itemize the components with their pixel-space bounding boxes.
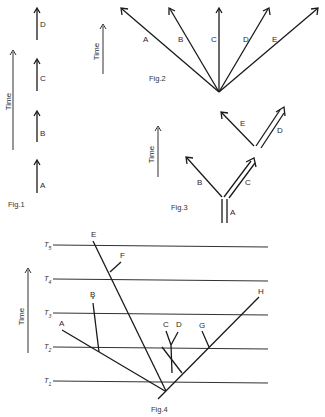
fig2-label-c: C [211, 36, 217, 44]
fig2-branch-d [219, 9, 268, 92]
fig1-time-label: Time [4, 93, 13, 110]
fig2-label-d: D [243, 36, 249, 44]
fig4-level-t4 [53, 279, 268, 281]
fig4-level-t3 [53, 313, 268, 315]
fig4-label-a: A [59, 320, 64, 328]
fig4-label-f: F [120, 252, 125, 260]
fig1-caption: Fig.1 [8, 200, 25, 209]
fig2-branch-a [122, 9, 219, 92]
fig4-lineage-g [202, 331, 209, 347]
fig3-caption: Fig.3 [171, 203, 188, 212]
fig2-label-a: A [143, 36, 148, 44]
fig4-level-label-t2: T2 [44, 342, 51, 353]
fig2-label-b: B [178, 36, 183, 44]
fig4-lineage-f [110, 262, 121, 272]
fig3-time-label: Time [147, 146, 156, 163]
fig4-label-e: E [91, 231, 96, 239]
fig3-label-d: D [277, 127, 283, 135]
fig1-label-b: B [40, 130, 45, 138]
figures-canvas [0, 0, 325, 417]
fig4-lineage-e [93, 241, 166, 391]
fig4-label-c: C [163, 321, 169, 329]
fig4-level-t2 [53, 347, 268, 349]
fig2-caption: Fig.2 [149, 74, 166, 83]
fig3-branch-e [222, 113, 254, 146]
fig3-label-b: B [197, 179, 202, 187]
fig4-time-label: Time [17, 308, 26, 325]
fig4-level-label-t5: T5 [44, 240, 51, 251]
fig1-label-c: C [40, 75, 46, 83]
fig4-level-label-t3: T3 [44, 308, 51, 319]
fig2-label-e: E [272, 36, 277, 44]
fig4-lineage-d [171, 332, 178, 345]
fig2-branch-e [219, 9, 317, 92]
fig4-lineage-c [166, 331, 171, 345]
fig4-level-label-t1: T1 [44, 376, 51, 387]
fig4-label-g: G [199, 322, 205, 330]
fig4-lineage-b [93, 303, 99, 352]
fig4-label-b: B [90, 291, 95, 299]
fig1-label-a: A [40, 182, 45, 190]
fig4-level-t5 [53, 245, 268, 247]
fig2-time-label: Time [92, 43, 101, 60]
fig4-label-h: H [258, 288, 264, 296]
fig4-label-d: D [176, 321, 182, 329]
fig4-level-t1 [53, 381, 268, 383]
fig3-label-c: C [245, 179, 251, 187]
fig3-label-a: A [230, 209, 235, 217]
fig4-level-label-t4: T4 [44, 274, 51, 285]
fig3-branch-b [187, 158, 222, 197]
fig4-caption: Fig.4 [151, 405, 168, 414]
fig3-label-e: E [240, 120, 245, 128]
fig1-label-d: D [40, 21, 46, 29]
fig2-branch-b [170, 9, 219, 92]
